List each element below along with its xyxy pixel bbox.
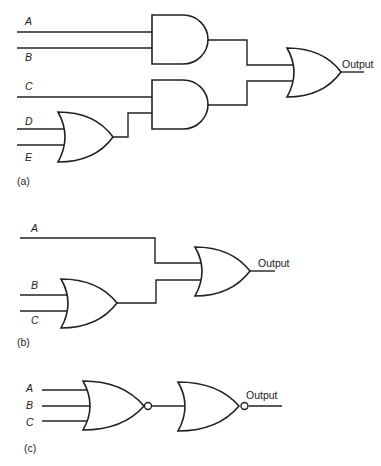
wire-or1-to-or2 — [117, 280, 202, 303]
caption-c: (c) — [24, 442, 36, 454]
wire-and1-to-or — [208, 40, 294, 65]
or-gate-final-a — [287, 48, 341, 97]
output-label-a: Output — [342, 58, 374, 70]
input-label-d: D — [25, 115, 33, 127]
input-label-a-c: A — [25, 382, 33, 394]
circuit-c: A B C Output (c) — [24, 381, 282, 454]
or-gate-final-b — [195, 247, 250, 296]
and-gate-2 — [152, 80, 208, 129]
input-label-b-c: B — [26, 399, 33, 411]
input-label-c-b: C — [31, 314, 39, 326]
or-gate-de — [58, 112, 113, 162]
input-label-a-b: A — [30, 222, 38, 234]
input-label-c: C — [25, 80, 33, 92]
caption-b: (b) — [17, 336, 30, 348]
nor-gate-2 — [178, 382, 239, 431]
circuit-b: A B C Output (b) — [17, 222, 290, 348]
nor-bubble-1 — [145, 403, 152, 410]
input-label-c-c: C — [26, 416, 34, 428]
input-label-a: A — [24, 15, 32, 27]
wire-and2-to-or — [208, 81, 294, 105]
input-label-b: B — [25, 51, 32, 63]
nor-gate-1 — [83, 381, 144, 430]
circuit-a: A B C D E Output (a) — [17, 15, 374, 187]
logic-circuits-diagram: A B C D E Output (a) A B C — [0, 0, 381, 466]
output-label-c: Output — [246, 389, 278, 401]
nor-bubble-2 — [241, 403, 248, 410]
or-gate-bc — [61, 279, 117, 328]
and-gate-1 — [152, 15, 208, 64]
output-label-b: Output — [258, 257, 290, 269]
input-label-b-b: B — [31, 279, 38, 291]
wire-or-to-and2 — [113, 113, 152, 137]
caption-a: (a) — [17, 175, 30, 187]
wire-a-b — [20, 238, 202, 263]
input-label-e: E — [25, 151, 33, 163]
